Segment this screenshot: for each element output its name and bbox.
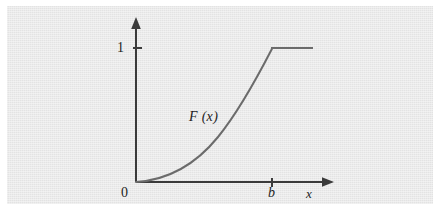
y-axis-arrowhead: [131, 17, 141, 29]
cdf-plot: [0, 0, 440, 210]
y-tick-label-one: 1: [117, 41, 124, 55]
origin-label: 0: [121, 186, 128, 200]
x-axis-label: x: [306, 187, 312, 200]
curve-label-fx: F (x): [189, 110, 218, 124]
x-tick-label-b: b: [268, 186, 275, 200]
figure-root: 1 0 b x F (x): [0, 0, 440, 210]
x-axis-arrowhead: [322, 177, 334, 187]
